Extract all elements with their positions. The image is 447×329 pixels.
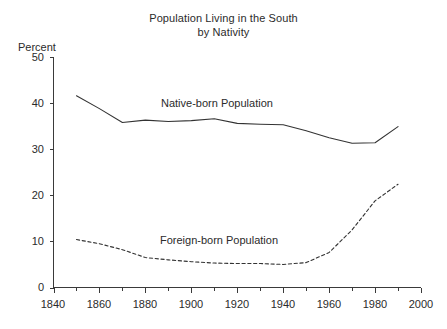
x-tick-marks-major <box>55 288 422 293</box>
chart-container: Population Living in the South by Nativi… <box>0 0 447 329</box>
y-tick-marks <box>50 58 54 289</box>
series-line-foreign-born <box>76 184 398 264</box>
series-group <box>76 96 398 265</box>
series-line-native-born <box>76 96 398 143</box>
plot-area <box>0 0 447 329</box>
axes-group <box>50 57 422 293</box>
